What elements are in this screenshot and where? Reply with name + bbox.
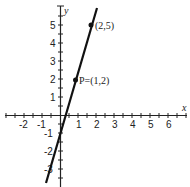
x-tick-label: 2 bbox=[94, 119, 100, 130]
y-tick-label: 1 bbox=[50, 92, 56, 103]
point-2-5-label: (2,5) bbox=[95, 20, 114, 32]
point-2-5 bbox=[89, 23, 94, 28]
x-tick-label: 1 bbox=[76, 119, 82, 130]
point-p-label: P=(1,2) bbox=[79, 75, 109, 87]
y-tick-label: 3 bbox=[50, 56, 56, 67]
x-tick-label: 6 bbox=[166, 119, 172, 130]
y-tick-label: -1 bbox=[44, 128, 53, 139]
y-axis-label: y bbox=[63, 5, 69, 16]
x-tick-label: 5 bbox=[148, 119, 154, 130]
x-tick-label: -2 bbox=[19, 119, 28, 130]
point-p bbox=[73, 78, 78, 83]
y-tick-label: -2 bbox=[44, 146, 53, 157]
coordinate-plane: -2 -1 1 2 3 4 5 6 5 4 3 2 1 -1 -2 -3 x y… bbox=[0, 0, 190, 187]
x-tick-label: 3 bbox=[112, 119, 118, 130]
x-axis-label: x bbox=[181, 102, 187, 113]
y-tick-label: 5 bbox=[50, 20, 56, 31]
y-tick-label: 2 bbox=[50, 74, 56, 85]
x-tick-label: 4 bbox=[130, 119, 136, 130]
y-tick-label: 4 bbox=[50, 38, 56, 49]
x-ticks bbox=[6, 113, 186, 118]
